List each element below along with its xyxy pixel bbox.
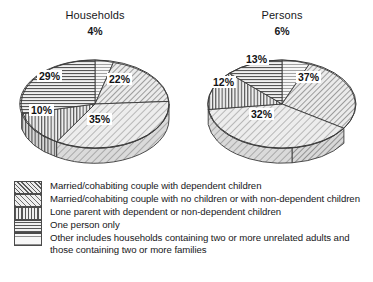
legend-label: One person only (50, 219, 120, 231)
slice-label-households-lone-parent: 10% (29, 104, 54, 116)
slice-label-households-other: 4% (2, 25, 188, 37)
slice-label-persons-one-person: 13% (244, 53, 269, 65)
legend-label: Lone parent with dependent or non-depend… (50, 206, 281, 218)
slice-label-households-married-no-children: 35% (87, 113, 112, 125)
slice-label-households-married-dependent: 22% (107, 73, 132, 85)
legend-item-lone-parent: Lone parent with dependent or non-depend… (14, 206, 281, 220)
chart-title-persons: Persons (189, 9, 373, 21)
pie-svg-persons (196, 40, 368, 168)
pie-chart-persons: Persons 6% (189, 0, 373, 172)
slice-label-persons-lone-parent: 12% (211, 76, 236, 88)
legend-item-other: Other includes households containing two… (14, 232, 359, 255)
legend-label: Married/cohabiting couple with no childr… (50, 193, 360, 205)
legend-item-married-no-children: Married/cohabiting couple with no childr… (14, 193, 360, 207)
slice-label-persons-married-no-children: 32% (249, 108, 274, 120)
pie-graphic-persons (196, 40, 368, 168)
slice-label-persons-married-dependent: 37% (296, 71, 321, 83)
light-horizontal-lines-icon (14, 233, 42, 246)
chart-legend: Married/cohabiting couple with dependent… (0, 174, 373, 282)
pie-chart-households: Households 4% (2, 0, 188, 172)
chart-title-households: Households (2, 9, 188, 21)
legend-label: Other includes households containing two… (50, 232, 350, 255)
slice-label-persons-other: 6% (189, 25, 373, 37)
legend-item-married-dependent: Married/cohabiting couple with dependent… (14, 180, 261, 194)
legend-item-one-person: One person only (14, 219, 120, 233)
charts-container: Households 4% (0, 0, 373, 172)
legend-label: Married/cohabiting couple with dependent… (50, 180, 261, 192)
slice-label-households-one-person: 29% (37, 70, 62, 82)
pie-chart-figure: Households 4% (0, 0, 373, 282)
